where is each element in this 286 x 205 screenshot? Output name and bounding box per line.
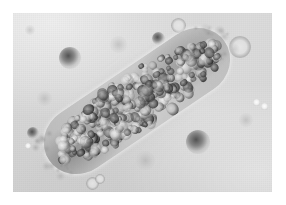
microscope-field-of-view: A dense, elongated, diagonally oriented … — [13, 13, 272, 192]
micrograph-figure: A dense, elongated, diagonally oriented … — [0, 0, 286, 205]
